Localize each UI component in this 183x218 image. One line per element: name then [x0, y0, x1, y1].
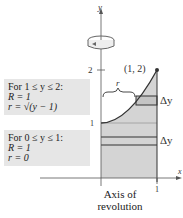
- lower-r: r = 0: [8, 153, 86, 163]
- upper-r: r = √(y − 1): [8, 102, 86, 112]
- shaded-region: [101, 70, 157, 178]
- delta-y-lower-label: Δy: [160, 134, 173, 146]
- point-1-2: [155, 68, 159, 72]
- info-box-upper: For 1 ≤ y ≤ 2: R = 1 r = √(y − 1): [4, 79, 90, 115]
- r-label: r: [116, 78, 120, 88]
- point-label: (1, 2): [124, 63, 146, 75]
- r-brace: [103, 88, 135, 97]
- caption-line2: revolution: [80, 200, 160, 212]
- caption-line1: Axis of: [80, 188, 160, 200]
- y-axis-label: y: [97, 2, 102, 12]
- axis-caption: Axis of revolution: [80, 188, 160, 212]
- x-axis-label: x: [177, 167, 182, 176]
- tick-y-2-label: 2: [88, 65, 93, 75]
- delta-y-upper-label: Δy: [160, 94, 173, 106]
- info-box-lower: For 0 ≤ y ≤ 1: R = 1 r = 0: [4, 130, 90, 166]
- tick-y-1-label: 1: [90, 119, 94, 128]
